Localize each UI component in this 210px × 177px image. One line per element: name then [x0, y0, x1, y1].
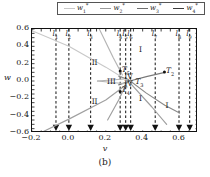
legend-swatch-w2	[100, 8, 111, 9]
legend-item-w2: w2*	[100, 2, 125, 15]
arrow-marker-l5	[122, 125, 128, 131]
x-tick-0: −0.2	[17, 134, 45, 142]
legend-swatch-w4	[173, 8, 184, 9]
region-label-1: II	[92, 98, 98, 106]
y-tick-3: 0.0	[16, 76, 29, 84]
region-label-6: I	[139, 95, 142, 103]
arrow-marker-l3	[87, 125, 93, 131]
y-tick-5: −0.4	[10, 111, 29, 119]
x-axis-label: v	[0, 145, 210, 153]
point-label-T3: T3	[135, 78, 143, 89]
legend-swatch-w1	[64, 8, 75, 9]
curve-w1*	[32, 31, 129, 81]
vline-label-l8: l8	[176, 30, 182, 41]
vline-label-l2: l2	[65, 30, 71, 41]
point-label-T2: T2	[166, 67, 174, 78]
vline-label-l3: l3	[87, 30, 93, 41]
curve-w-branch-right-down	[131, 84, 167, 125]
region-label-2: III	[107, 78, 116, 86]
region-label-4: IV	[124, 80, 132, 88]
region-label-5: I	[139, 46, 142, 54]
legend-label-w3: w3*	[150, 2, 162, 15]
vline-label-l1: l1	[52, 30, 58, 41]
legend-label-w2: w2*	[113, 2, 125, 15]
legend-item-w3: w3*	[137, 2, 162, 15]
y-tick-1: 0.4	[16, 41, 29, 49]
arrow-marker-l8	[176, 125, 182, 131]
vline-label-l7: l7	[152, 30, 158, 41]
region-label-7: I	[165, 102, 168, 110]
region-label-0: II	[92, 59, 98, 67]
legend-swatch-w3	[137, 8, 148, 9]
point-label-T4: T4	[122, 86, 130, 97]
legend-item-w4: w4*	[173, 2, 198, 15]
arrow-marker-l9	[187, 125, 193, 131]
x-tick-2: 0.2	[91, 134, 119, 142]
figure-caption: (b)	[0, 158, 210, 167]
y-tick-4: −0.2	[10, 93, 29, 101]
x-tick-3: 0.4	[128, 134, 156, 142]
figure-panel: w1* w2* w3* w4* 0.60.40.20.0−0.2−0.4−0.6…	[0, 0, 210, 177]
arrow-marker-l4	[117, 125, 123, 131]
y-tick-0: 0.6	[16, 24, 29, 32]
arrow-marker-l2	[66, 125, 72, 131]
legend-item-w1: w1*	[64, 2, 89, 15]
vline-label-l6: l6	[127, 30, 133, 41]
y-tick-2: 0.2	[16, 59, 29, 67]
legend: w1* w2* w3* w4*	[57, 2, 205, 15]
arrow-marker-l7	[152, 125, 158, 131]
x-tick-4: 0.6	[165, 134, 193, 142]
x-tick-1: 0.0	[54, 134, 82, 142]
arrow-marker-l6	[127, 125, 133, 131]
y-axis-label: w	[4, 74, 11, 82]
legend-label-w1: w1*	[77, 2, 89, 15]
vline-label-l9: l9	[186, 30, 192, 41]
legend-label-w4: w4*	[186, 2, 198, 15]
